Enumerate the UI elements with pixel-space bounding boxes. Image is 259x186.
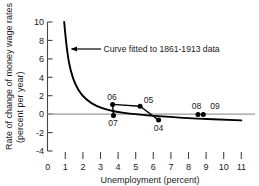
data-point-08[interactable] — [196, 112, 201, 117]
data-label-09: 09 — [210, 101, 220, 111]
data-point-05[interactable] — [138, 104, 143, 109]
data-label-04: 04 — [154, 123, 164, 133]
y-tick-label-2: 2 — [39, 91, 44, 101]
data-label-05: 05 — [144, 95, 154, 105]
x-axis-title: Unemployment (percent) — [100, 175, 199, 185]
data-label-06: 06 — [107, 92, 117, 102]
data-label-08: 08 — [192, 101, 202, 111]
x-tick-label-4: 4 — [116, 162, 121, 172]
y-tick-label-neg2: -2 — [36, 128, 44, 138]
annotation-label: Curve fitted to 1861-1913 data — [104, 44, 220, 54]
x-tick-label-10: 10 — [219, 162, 229, 172]
chart-canvas: 10 8 6 4 2 0 -2 -4 Rate of change of mon… — [0, 0, 259, 186]
x-tick-label-5: 5 — [133, 162, 138, 172]
phillips-curve-figure: 10 8 6 4 2 0 -2 -4 Rate of change of mon… — [0, 0, 259, 186]
y-tick-label-0: 0 — [39, 109, 44, 119]
x-tick-label-7: 7 — [168, 162, 173, 172]
data-point-06[interactable] — [110, 102, 115, 107]
y-axis-title-line2: (percent per year) — [15, 71, 25, 143]
data-point-09[interactable] — [201, 112, 206, 117]
x-tick-label-3: 3 — [98, 162, 103, 172]
x-tick-label-2: 2 — [80, 162, 85, 172]
y-tick-label-10: 10 — [34, 17, 44, 27]
x-tick-label-8: 8 — [186, 162, 191, 172]
y-tick-label-8: 8 — [39, 36, 44, 46]
x-tick-label-9: 9 — [204, 162, 209, 172]
y-tick-label-6: 6 — [39, 54, 44, 64]
y-axis-title-line1: Rate of change of money wage rates — [4, 2, 14, 150]
y-tick-label-4: 4 — [39, 73, 44, 83]
x-tick-label-6: 6 — [151, 162, 156, 172]
x-tick-label-0: 0 — [45, 162, 50, 172]
x-tick-label-11: 11 — [237, 162, 246, 172]
y-tick-label-neg4: -4 — [36, 146, 44, 156]
data-label-07: 07 — [108, 118, 118, 128]
x-tick-label-1: 1 — [63, 162, 68, 172]
